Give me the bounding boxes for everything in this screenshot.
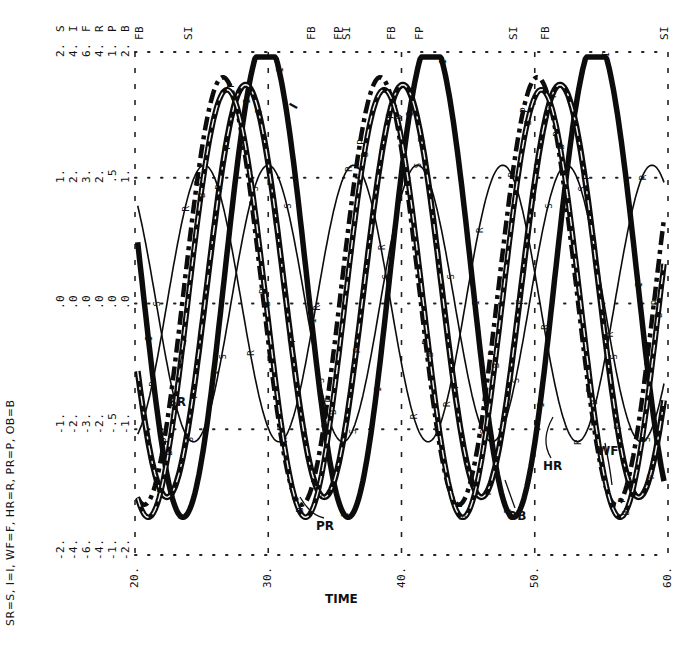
scale-value-s: .0 (54, 294, 67, 308)
point-marker: P (617, 497, 627, 503)
x-tick-label: 40. (395, 567, 408, 588)
curve-label-sr: SR (168, 395, 186, 409)
scale-value-f: 6. (80, 43, 93, 57)
point-marker: F (320, 495, 330, 500)
scale-value-p: .5 (106, 169, 119, 183)
point-marker: F (254, 108, 264, 113)
scale-value-b: 2. (119, 43, 132, 57)
point-marker: B (295, 507, 305, 512)
point-marker: R (442, 401, 452, 407)
point-marker: S (381, 274, 391, 279)
point-marker: F (189, 393, 199, 398)
scale-value-p: 1. (106, 43, 119, 57)
point-marker: I (242, 99, 252, 104)
point-marker: R (409, 413, 419, 419)
scale-value-f: -6. (80, 539, 93, 560)
point-marker: I (144, 336, 154, 341)
point-marker: S (348, 429, 358, 434)
point-marker: R (246, 350, 256, 356)
scale-variable-r: R (93, 25, 106, 32)
point-marker: B (491, 363, 501, 368)
point-marker: B (197, 193, 207, 198)
scale-value-b: 1. (119, 169, 132, 183)
point-marker: R (573, 439, 583, 445)
scale-value-s: -2. (54, 539, 67, 560)
scale-value-i: 4. (67, 43, 80, 57)
scale-value-i: -4. (67, 539, 80, 560)
point-marker: I (536, 402, 546, 407)
point-marker: B (589, 400, 599, 405)
scale-value-r: 4. (93, 43, 106, 57)
point-marker: S (218, 354, 228, 359)
point-marker: F (515, 299, 525, 304)
point-marker: F (483, 490, 493, 495)
curve-label-hr: HR (543, 459, 562, 473)
point-marker: I (275, 67, 285, 72)
point-marker: B (556, 144, 566, 149)
scale-value-i: .0 (67, 294, 80, 308)
scale-value-r: -2. (93, 413, 106, 434)
point-marker: F (613, 424, 623, 429)
top-annotation-fb: FB (385, 26, 398, 40)
curve-label-ob: OB (507, 509, 526, 523)
scale-value-f: -3. (80, 413, 93, 434)
scale-value-s: 1. (54, 169, 67, 183)
point-marker: F (222, 145, 232, 150)
point-marker: S (283, 203, 293, 208)
point-marker: B (328, 410, 338, 415)
point-marker: I (373, 387, 383, 392)
point-marker: R (312, 304, 322, 310)
point-marker: I (601, 52, 611, 57)
top-annotation-si: SI (658, 26, 671, 40)
point-marker: B (262, 301, 272, 306)
curve-label-pr: PR (316, 519, 334, 533)
point-marker: S (609, 354, 619, 359)
scale-variable-f: F (80, 25, 93, 32)
point-marker: B (654, 312, 664, 317)
scale-value-p: -.5 (106, 413, 119, 434)
scale-value-p: -1. (106, 539, 119, 560)
x-tick-label: 60. (661, 567, 674, 588)
point-marker: B (523, 120, 533, 125)
point-marker: I (634, 282, 644, 287)
scale-variable-i: I (67, 25, 80, 32)
curve-label-wf: WF (597, 444, 618, 458)
legend: SR=S, I=I, WF=F, HR=R, PR=P, OB=B (4, 399, 17, 626)
top-annotation-fp: FP (413, 26, 426, 40)
point-marker: B (425, 352, 435, 357)
point-marker: F (450, 384, 460, 389)
scale-value-b: .0 (119, 294, 132, 308)
point-marker: S (544, 203, 554, 208)
scale-value-s: 2. (54, 43, 67, 57)
point-marker: R (540, 324, 550, 330)
top-annotation-fb: FB (305, 26, 318, 40)
scale-value-b: -2. (119, 539, 132, 560)
point-marker: R (181, 205, 191, 211)
scale-variable-p: P (106, 25, 119, 32)
top-annotation-si: SI (340, 26, 353, 40)
scale-value-f: 3. (80, 169, 93, 183)
point-marker: I (340, 512, 350, 517)
top-annotation-si: SI (507, 26, 520, 40)
point-marker: R (475, 227, 485, 233)
scale-value-r: .0 (93, 294, 106, 308)
top-annotation-si: SI (182, 26, 195, 40)
point-marker: F (646, 474, 656, 479)
point-marker: I (177, 514, 187, 519)
point-marker: S (446, 274, 456, 279)
point-marker: F (287, 337, 297, 342)
point-marker: S (413, 163, 423, 168)
scale-value-i: 2. (67, 169, 80, 183)
scale-value-r: -4. (93, 539, 106, 560)
point-marker: B (230, 95, 240, 100)
x-tick-label: 20. (128, 567, 141, 588)
callout-leader (546, 417, 553, 458)
point-marker: B (458, 515, 468, 520)
point-marker: F (417, 137, 427, 142)
point-marker: B (164, 450, 174, 455)
point-marker: P (226, 82, 236, 88)
x-tick-label: 30. (261, 567, 274, 588)
point-marker: S (152, 301, 162, 306)
point-marker: S (511, 378, 521, 383)
point-marker: R (148, 381, 158, 387)
